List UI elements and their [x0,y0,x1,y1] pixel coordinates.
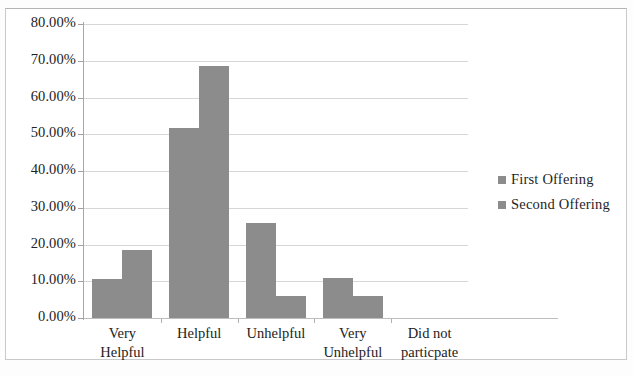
legend-item: Second Offering [498,192,628,217]
gridline [84,208,468,209]
y-axis-tick [78,208,83,209]
bar [353,296,383,318]
gridline [84,24,468,25]
plot-area [84,24,468,318]
bar [323,278,353,318]
y-axis-tick [78,245,83,246]
x-axis-line [84,318,558,319]
x-axis-category-label: VeryHelpful [84,324,161,362]
y-axis-tick [78,98,83,99]
bar-chart: 0.00%10.00%20.00%30.00%40.00%50.00%60.00… [0,0,633,376]
gridline [84,245,468,246]
gridline [84,134,468,135]
legend-label: First Offering [511,171,594,188]
y-axis-tick-label: 40.00% [4,161,76,178]
bar [122,250,152,318]
gridline [84,98,468,99]
y-axis-tick [78,61,83,62]
x-axis-category-label: VeryUnhelpful [314,324,391,362]
bar [199,66,229,318]
x-axis-tick [238,319,239,323]
x-axis-category-label: Helpful [161,324,238,343]
x-axis-labels: VeryHelpfulHelpfulUnhelpfulVeryUnhelpful… [84,324,468,372]
y-axis-tick-label: 80.00% [4,14,76,31]
x-axis-tick [314,319,315,323]
y-axis-tick [78,134,83,135]
y-axis-tick [78,171,83,172]
chart-legend: First OfferingSecond Offering [498,167,628,217]
y-axis-tick-label: 0.00% [4,308,76,325]
bar [246,223,276,318]
legend-swatch-icon [498,176,506,184]
legend-swatch-icon [498,201,506,209]
y-axis-labels: 0.00%10.00%20.00%30.00%40.00%50.00%60.00… [0,0,76,376]
legend-item: First Offering [498,167,628,192]
gridline [84,61,468,62]
bar [92,279,122,318]
y-axis-tick-label: 50.00% [4,124,76,141]
y-axis-tick [78,318,83,319]
bar [169,128,199,318]
y-axis-tick-label: 30.00% [4,198,76,215]
y-axis-tick-label: 10.00% [4,271,76,288]
y-axis-tick-label: 20.00% [4,235,76,252]
x-axis-category-label: Did notparticpate [391,324,468,362]
y-axis-tick [78,281,83,282]
y-axis-tick-label: 70.00% [4,51,76,68]
gridline [84,171,468,172]
legend-label: Second Offering [511,196,610,213]
x-axis-tick [161,319,162,323]
x-axis-tick [391,319,392,323]
bar [276,296,306,318]
y-axis-tick [78,24,83,25]
y-axis-tick-label: 60.00% [4,88,76,105]
x-axis-category-label: Unhelpful [238,324,315,343]
